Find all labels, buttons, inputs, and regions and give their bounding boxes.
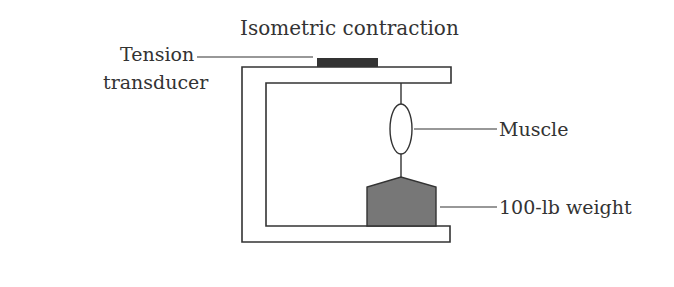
- diagram-title: Isometric contraction: [240, 18, 459, 38]
- weight: [367, 177, 436, 226]
- transducer-label-line2: transducer: [103, 73, 208, 92]
- muscle: [390, 104, 412, 154]
- tension-transducer: [317, 58, 378, 67]
- muscle-label: Muscle: [499, 120, 568, 139]
- weight-label: 100-lb weight: [499, 198, 632, 217]
- diagram-canvas: [0, 0, 674, 287]
- transducer-label-line1: Tension: [120, 45, 194, 64]
